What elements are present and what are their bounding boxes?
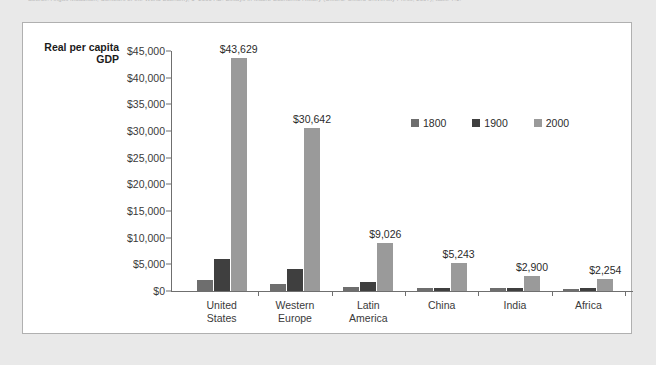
bar-1800[interactable] (270, 284, 286, 291)
bar-1900[interactable] (507, 288, 523, 291)
y-axis-title: Real per capita GDP (37, 41, 119, 65)
bar-1900[interactable] (214, 259, 230, 291)
x-axis-tick-mark (478, 291, 479, 296)
bar-2000[interactable] (524, 276, 540, 291)
x-axis-category-label: Western Europe (276, 299, 315, 324)
bar-1900[interactable] (360, 282, 376, 291)
y-axis-tick-label: $5,000 (133, 258, 165, 270)
x-axis-tick-mark (258, 291, 259, 296)
legend-label: 2000 (546, 117, 569, 129)
y-axis-tick-label: $0 (153, 285, 165, 297)
bar-2000[interactable] (451, 263, 467, 291)
bar-1800[interactable] (563, 289, 579, 291)
bar-value-label: $2,254 (589, 264, 621, 276)
chart-legend: 180019002000 (411, 117, 569, 129)
y-axis-tick-label: $20,000 (127, 178, 165, 190)
y-axis-tick-label: $30,000 (127, 125, 165, 137)
bar-1900[interactable] (287, 269, 303, 291)
bar-1800[interactable] (343, 287, 359, 291)
x-axis-tick-mark (332, 291, 333, 296)
x-axis-category-label: India (504, 299, 527, 312)
bar-value-label: $5,243 (443, 248, 475, 260)
bar-2000[interactable] (597, 279, 613, 291)
y-axis-tick-label: $10,000 (127, 232, 165, 244)
legend-label: 1800 (423, 117, 446, 129)
bar-value-label: $43,629 (220, 43, 258, 55)
legend-swatch-icon (534, 119, 542, 127)
plot-area: Real per capita GDP $0$5,000$10,000$15,0… (23, 23, 631, 333)
chart-panel: Real per capita GDP $0$5,000$10,000$15,0… (22, 22, 632, 334)
x-axis-category-label: Latin America (349, 299, 388, 324)
x-axis-category-label: United States (206, 299, 236, 324)
bar-1800[interactable] (197, 280, 213, 291)
x-axis-tick-mark (625, 291, 626, 296)
bar-value-label: $2,900 (516, 261, 548, 273)
bar-1800[interactable] (417, 288, 433, 291)
legend-item-1900[interactable]: 1900 (472, 117, 507, 129)
bar-1900[interactable] (434, 288, 450, 291)
legend-swatch-icon (411, 119, 419, 127)
y-axis-tick-label: $35,000 (127, 98, 165, 110)
bar-1900[interactable] (580, 288, 596, 291)
legend-item-1800[interactable]: 1800 (411, 117, 446, 129)
bar-group (343, 51, 393, 291)
bar-group (563, 51, 613, 291)
y-axis-tick-labels: $0$5,000$10,000$15,000$20,000$25,000$30,… (109, 23, 171, 333)
y-axis-tick-label: $45,000 (127, 45, 165, 57)
bar-2000[interactable] (231, 58, 247, 291)
bar-value-label: $30,642 (293, 113, 331, 125)
x-axis-category-label: Africa (575, 299, 602, 312)
bars-container: $43,629$30,642$9,026$5,243$2,900$2,254 (171, 51, 633, 291)
bar-2000[interactable] (304, 128, 320, 291)
bar-value-label: $9,026 (369, 228, 401, 240)
legend-label: 1900 (484, 117, 507, 129)
y-axis-tick-label: $15,000 (127, 205, 165, 217)
x-axis-line (171, 291, 633, 292)
bar-group (197, 51, 247, 291)
x-axis-tick-mark (552, 291, 553, 296)
bar-group (490, 51, 540, 291)
y-axis-tick-label: $40,000 (127, 72, 165, 84)
legend-swatch-icon (472, 119, 480, 127)
bar-2000[interactable] (377, 243, 393, 291)
source-caption: Source: Angus Maddison, Contours of the … (28, 0, 628, 2)
bar-1800[interactable] (490, 288, 506, 291)
x-axis-category-label: China (428, 299, 455, 312)
y-axis-tick-label: $25,000 (127, 152, 165, 164)
x-axis-tick-mark (405, 291, 406, 296)
bar-group (270, 51, 320, 291)
legend-item-2000[interactable]: 2000 (534, 117, 569, 129)
